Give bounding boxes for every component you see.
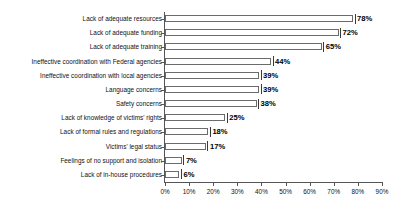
bar-value-label: 6%: [183, 169, 194, 180]
bar-value-label: 39%: [263, 84, 278, 95]
x-axis-line: [164, 182, 383, 183]
bar-row: 72%: [165, 26, 382, 40]
bar-value-label: 39%: [263, 70, 278, 81]
category-label: Lack of formal rules and regulations: [0, 125, 162, 139]
bar-end-cap: [261, 70, 262, 80]
y-axis-tick: [161, 62, 165, 63]
bar: [165, 143, 206, 150]
x-axis-tick: [358, 182, 359, 186]
bar-value-label: 65%: [326, 41, 341, 52]
bar: [165, 100, 257, 107]
bar-end-cap: [207, 141, 208, 151]
bar-end-cap: [273, 56, 274, 66]
bar: [165, 86, 259, 93]
bar-end-cap: [258, 99, 259, 109]
y-axis-tick: [161, 118, 165, 119]
bar-value-label: 38%: [261, 98, 276, 109]
bar-row: 25%: [165, 111, 382, 125]
x-axis-tick: [334, 182, 335, 186]
y-axis-tick: [161, 19, 165, 20]
x-axis-tick: [189, 182, 190, 186]
x-axis-tick: [382, 182, 383, 186]
bar: [165, 15, 353, 22]
bar: [165, 171, 179, 178]
category-label: Language concerns: [0, 83, 162, 97]
bar-row: 7%: [165, 154, 382, 168]
bar-row: 6%: [165, 168, 382, 182]
bar-value-label: 17%: [210, 141, 225, 152]
bar-end-cap: [323, 42, 324, 52]
x-axis-tick: [310, 182, 311, 186]
x-axis-tick: [237, 182, 238, 186]
bar-row: 18%: [165, 125, 382, 139]
category-label: Feelings of no support and isolation: [0, 154, 162, 168]
x-axis-tick-label: 90%: [367, 187, 397, 196]
bar-row: 44%: [165, 55, 382, 69]
bar-row: 38%: [165, 97, 382, 111]
x-axis-tick: [213, 182, 214, 186]
bar: [165, 128, 208, 135]
bar: [165, 114, 225, 121]
bar-value-label: 44%: [275, 56, 290, 67]
y-axis-tick: [161, 90, 165, 91]
horizontal-bar-chart: Lack of adequate resourcesLack of adequa…: [0, 0, 406, 206]
category-label: Ineffective coordination with local agen…: [0, 69, 162, 83]
bar-end-cap: [210, 127, 211, 137]
category-label: Victims' legal status: [0, 140, 162, 154]
bar-value-label: 25%: [229, 112, 244, 123]
y-axis-tick: [161, 132, 165, 133]
category-label: Lack of adequate resources: [0, 12, 162, 26]
bar-value-label: 7%: [186, 155, 197, 166]
x-axis-tick: [165, 182, 166, 186]
bar-row: 39%: [165, 69, 382, 83]
bar-end-cap: [227, 113, 228, 123]
plot-area: 78%72%65%44%39%39%38%25%18%17%7%6% 0%10%…: [165, 12, 382, 182]
bar: [165, 58, 271, 65]
y-axis-tick: [161, 175, 165, 176]
bar-row: 78%: [165, 12, 382, 26]
x-axis-tick: [261, 182, 262, 186]
y-axis-tick: [161, 76, 165, 77]
bar-row: 17%: [165, 140, 382, 154]
category-axis-labels: Lack of adequate resourcesLack of adequa…: [0, 12, 162, 182]
bar-row: 65%: [165, 40, 382, 54]
y-axis-tick: [161, 104, 165, 105]
bar: [165, 29, 339, 36]
bar: [165, 72, 259, 79]
y-axis-tick: [161, 147, 165, 148]
category-label: Lack of adequate training: [0, 40, 162, 54]
bar-end-cap: [340, 28, 341, 38]
bar: [165, 43, 322, 50]
category-label: Lack of knowledge of victims' rights: [0, 111, 162, 125]
bar-end-cap: [181, 169, 182, 179]
bar-value-label: 78%: [357, 13, 372, 24]
bar: [165, 157, 182, 164]
y-axis-tick: [161, 33, 165, 34]
bar-row: 39%: [165, 83, 382, 97]
category-label: Lack of adequate funding: [0, 26, 162, 40]
y-axis-tick: [161, 47, 165, 48]
y-axis-tick: [161, 161, 165, 162]
bar-end-cap: [183, 155, 184, 165]
bar-end-cap: [261, 84, 262, 94]
bar-value-label: 72%: [343, 27, 358, 38]
bar-value-label: 18%: [212, 126, 227, 137]
x-axis-tick: [286, 182, 287, 186]
category-label: Ineffective coordination with Federal ag…: [0, 55, 162, 69]
category-label: Lack of in-house procedures: [0, 168, 162, 182]
category-label: Safety concerns: [0, 97, 162, 111]
bar-end-cap: [355, 14, 356, 24]
